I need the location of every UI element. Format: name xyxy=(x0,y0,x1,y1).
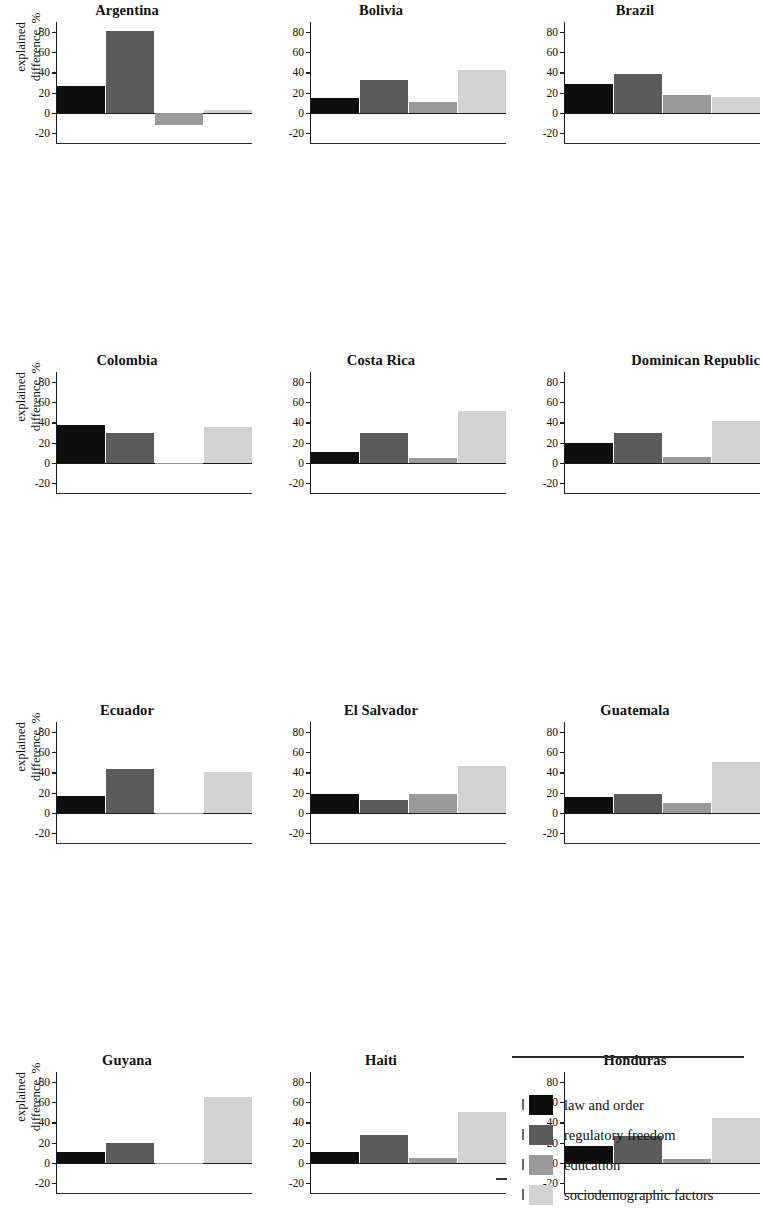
panel-colombia: Colombiaexplaineddifference, %806040200-… xyxy=(0,350,254,525)
plot-area: 806040200-20 xyxy=(310,722,502,843)
y-tick xyxy=(52,72,56,73)
bar-law-and-order xyxy=(565,84,613,113)
bar-regulatory-freedom xyxy=(106,769,154,812)
y-tick xyxy=(306,1102,310,1103)
plot-area: 806040200-20 xyxy=(56,1072,248,1193)
panel-haiti: Haiti806040200-20 xyxy=(254,1050,508,1225)
y-tick xyxy=(560,732,564,733)
legend-color-swatch xyxy=(529,1125,553,1145)
y-tick xyxy=(306,1183,310,1184)
legend-tick-icon xyxy=(522,1159,524,1170)
panel-title: Dominican Republic xyxy=(508,352,762,369)
plot-area: 806040200-20 xyxy=(310,22,502,143)
zero-line xyxy=(56,113,252,115)
bar-law-and-order xyxy=(565,443,613,463)
y-tick-label: 40 xyxy=(39,67,51,78)
y-tick xyxy=(306,443,310,444)
panel-bolivia: Bolivia806040200-20 xyxy=(254,0,508,175)
y-tick-label: 20 xyxy=(39,437,51,448)
bar-regulatory-freedom xyxy=(106,31,154,113)
bar-regulatory-freedom xyxy=(614,794,662,813)
bar-sociodemographic-factors xyxy=(204,772,252,812)
y-tick-label: 80 xyxy=(547,377,559,388)
panel-bottom-rule xyxy=(310,843,506,844)
legend-color-swatch xyxy=(529,1185,553,1205)
y-axis-line xyxy=(310,722,311,843)
y-axis-line xyxy=(564,722,565,843)
zero-line xyxy=(564,813,760,815)
y-tick xyxy=(52,752,56,753)
y-tick-label: 40 xyxy=(293,67,305,78)
plot-area: 806040200-20 xyxy=(310,372,502,493)
y-tick xyxy=(306,133,310,134)
legend-label: regulatory freedom xyxy=(564,1127,676,1143)
y-tick-label: 20 xyxy=(293,87,305,98)
bar-sociodemographic-factors xyxy=(458,411,506,462)
bar-sociodemographic-factors xyxy=(712,762,760,812)
zero-line xyxy=(310,1163,506,1165)
y-tick-label: 40 xyxy=(39,417,51,428)
y-tick-label: 60 xyxy=(39,747,51,758)
bar-sociodemographic-factors xyxy=(204,1097,252,1163)
y-tick-label: 80 xyxy=(39,27,51,38)
y-tick-label: -20 xyxy=(35,827,50,838)
panel-title: Guatemala xyxy=(508,702,762,719)
y-tick-label: -20 xyxy=(35,1177,50,1188)
y-axis-label-line1: explained xyxy=(13,342,28,452)
y-tick-label: 80 xyxy=(39,1077,51,1088)
y-tick xyxy=(560,752,564,753)
y-tick-label: 0 xyxy=(552,107,558,118)
y-tick xyxy=(52,32,56,33)
y-tick-label: 40 xyxy=(293,417,305,428)
bar-education xyxy=(409,1158,457,1163)
bar-law-and-order xyxy=(57,1152,105,1163)
plot-area: 806040200-20 xyxy=(564,722,756,843)
panel-dominican-republic: Dominican Republic806040200-20 xyxy=(508,350,762,525)
y-axis-line xyxy=(310,372,311,493)
y-tick-label: 0 xyxy=(552,457,558,468)
y-tick xyxy=(52,1102,56,1103)
panel-title: Costa Rica xyxy=(254,352,508,369)
panel-bottom-rule xyxy=(564,493,760,494)
y-tick xyxy=(52,93,56,94)
legend-item: law and order xyxy=(508,1092,644,1118)
y-tick-label: 40 xyxy=(547,67,559,78)
y-tick-label: 0 xyxy=(44,457,50,468)
panel-row: Argentinaexplaineddifference, %806040200… xyxy=(0,0,762,175)
y-tick-label: 60 xyxy=(547,397,559,408)
bar-regulatory-freedom xyxy=(106,1143,154,1163)
y-tick-label: 60 xyxy=(39,1097,51,1108)
bar-law-and-order xyxy=(57,86,105,113)
panel-guyana: Guyanaexplaineddifference, %806040200-20 xyxy=(0,1050,254,1225)
zero-line xyxy=(564,463,760,465)
y-tick-label: 40 xyxy=(547,417,559,428)
y-tick-label: 60 xyxy=(547,47,559,58)
y-tick xyxy=(560,483,564,484)
y-tick xyxy=(52,422,56,423)
bar-law-and-order xyxy=(311,98,359,113)
y-tick xyxy=(560,93,564,94)
y-tick xyxy=(52,443,56,444)
legend-tick-icon xyxy=(522,1189,524,1200)
zero-line xyxy=(56,463,252,465)
y-tick xyxy=(52,793,56,794)
y-tick xyxy=(560,772,564,773)
y-tick-label: 0 xyxy=(298,1157,304,1168)
legend-label: sociodemographic factors xyxy=(564,1187,713,1203)
y-tick-label: -20 xyxy=(289,827,304,838)
y-tick-label: 20 xyxy=(39,87,51,98)
panel-bottom-rule xyxy=(56,843,252,844)
y-tick-label: 80 xyxy=(39,727,51,738)
zero-line xyxy=(310,813,506,815)
y-tick xyxy=(52,732,56,733)
bar-education xyxy=(409,794,457,813)
y-tick xyxy=(306,32,310,33)
legend-item: education xyxy=(508,1152,620,1178)
panel-bottom-rule xyxy=(56,143,252,144)
y-tick-label: 60 xyxy=(547,747,559,758)
y-tick-label: -20 xyxy=(543,827,558,838)
bar-education xyxy=(155,113,203,125)
y-tick xyxy=(306,402,310,403)
y-tick-label: 0 xyxy=(298,457,304,468)
y-tick-label: 80 xyxy=(547,727,559,738)
